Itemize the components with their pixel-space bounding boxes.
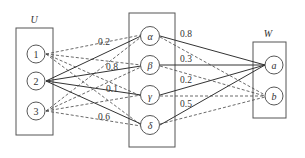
- edge-label: 0.5: [180, 99, 192, 109]
- svg-text:2: 2: [34, 76, 39, 87]
- u-to-m-dashed-edges: [46, 35, 141, 126]
- svg-text:β: β: [147, 60, 153, 71]
- svg-text:3: 3: [34, 106, 39, 117]
- edge-label: 0.2: [180, 75, 192, 85]
- group-u-label: U: [30, 14, 38, 25]
- m-to-w-solid-edges: [160, 36, 265, 125]
- edge-label: 0.6: [98, 112, 110, 122]
- node-alpha: α: [141, 27, 160, 46]
- svg-text:α: α: [147, 31, 153, 42]
- node-2: 2: [27, 72, 45, 90]
- node-gamma: γ: [141, 86, 160, 105]
- node-beta: β: [141, 56, 160, 75]
- node-a: a: [265, 56, 283, 74]
- edge-label: 0.1: [106, 84, 118, 94]
- svg-text:b: b: [272, 91, 277, 102]
- group-w-label: W: [264, 28, 274, 39]
- node-3: 3: [27, 102, 45, 120]
- edge-label: 0.8: [180, 29, 192, 39]
- svg-text:a: a: [272, 60, 277, 71]
- node-delta: δ: [141, 116, 160, 135]
- node-b: b: [265, 87, 283, 105]
- node-1: 1: [27, 45, 45, 63]
- edge-labels-right: 0.8 0.3 0.2 0.5: [180, 29, 192, 109]
- u-to-m-solid-edges: [46, 36, 141, 124]
- svg-text:1: 1: [34, 49, 39, 60]
- edge-label: 0.3: [180, 54, 192, 64]
- svg-text:δ: δ: [148, 120, 153, 131]
- network-diagram: U W 0.2 0.8 0.1 0.6 0.8: [0, 0, 305, 158]
- edge-label: 0.8: [106, 62, 118, 72]
- edge-label: 0.2: [98, 37, 110, 47]
- group-w-box: [253, 42, 286, 118]
